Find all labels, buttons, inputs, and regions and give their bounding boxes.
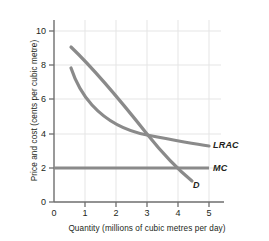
x-tick-label-4: 4 xyxy=(168,208,188,218)
series-label-mc: MC xyxy=(213,163,227,173)
series-label-lrac: LRAC xyxy=(213,140,239,150)
x-tick-label-5: 5 xyxy=(199,208,219,218)
y-axis-ticks xyxy=(49,31,54,202)
x-tick-label-1: 1 xyxy=(75,208,95,218)
x-tick-label-3: 3 xyxy=(137,208,157,218)
series-d-curve xyxy=(71,47,192,181)
chart-figure: 10 8 6 4 2 0 0 1 2 3 4 5 LRAC MC D Price… xyxy=(0,0,269,241)
x-axis-title: Quantity (millions of cubic metres per d… xyxy=(42,224,252,233)
x-axis-ticks xyxy=(85,202,209,207)
y-axis-title: Price and cost (cents per cubic metre) xyxy=(30,16,39,206)
series-label-d: D xyxy=(193,180,200,190)
grid-horizontal xyxy=(54,31,221,168)
x-tick-label-2: 2 xyxy=(106,208,126,218)
x-tick-label-0: 0 xyxy=(44,208,64,218)
grid-vertical xyxy=(85,20,209,202)
